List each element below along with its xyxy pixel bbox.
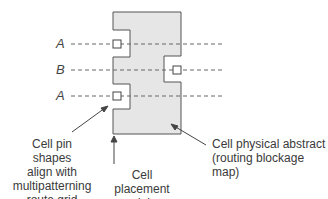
track-label-a-bottom: A [56, 88, 65, 103]
track-label-b: B [56, 62, 65, 77]
physical-abstract-annotation: Cell physical abstract (routing blockage… [212, 137, 328, 179]
annotation-line: origin [104, 196, 180, 199]
pin-a-top [113, 40, 121, 48]
pin-a-bottom [113, 92, 121, 100]
annotation-line: multipatterning [12, 179, 92, 193]
placement-origin-annotation: Cell placement origin [104, 168, 180, 199]
track-label-a-top: A [56, 36, 65, 51]
arrow-head-pin [101, 106, 108, 112]
cell-abstract-shape [113, 12, 181, 134]
annotation-line: Cell placement [104, 168, 180, 196]
annotation-line: route grid [12, 193, 92, 199]
pin-b [173, 66, 181, 74]
annotation-line: Cell pin shapes [12, 137, 92, 165]
annotation-line: (routing blockage map) [212, 151, 328, 179]
annotation-line: Cell physical abstract [212, 137, 328, 151]
annotation-line: align with [12, 165, 92, 179]
pin-shapes-annotation: Cell pin shapes align with multipatterni… [12, 137, 92, 199]
arrow-head-origin [111, 136, 117, 142]
